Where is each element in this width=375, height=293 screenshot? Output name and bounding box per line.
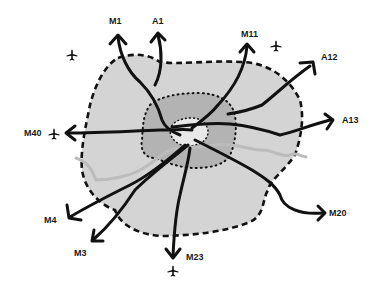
road-label-m4: M4: [44, 215, 57, 225]
airplane-icon: [66, 49, 78, 61]
road-label-m11: M11: [241, 29, 258, 39]
road-label-m1: M1: [109, 16, 122, 26]
road-label-m23: M23: [186, 252, 204, 262]
road-label-m20: M20: [329, 208, 347, 218]
road-label-a1: A1: [152, 16, 164, 26]
road-label-a12: A12: [321, 52, 338, 62]
airplane-icon: [167, 265, 179, 277]
road-label-a13: A13: [342, 115, 359, 125]
airplane-icon: [48, 128, 60, 140]
map-canvas: [0, 0, 375, 293]
road-label-m40: M40: [24, 128, 42, 138]
road-label-m3: M3: [74, 248, 87, 258]
airplane-icon: [270, 40, 282, 52]
